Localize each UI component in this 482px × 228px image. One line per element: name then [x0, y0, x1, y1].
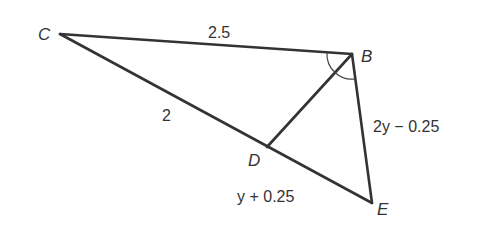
length-label-cd: 2 — [162, 107, 171, 124]
vertex-label-b: B — [361, 47, 372, 66]
vertex-label-d: D — [248, 151, 260, 170]
angle-arc-dbe — [335, 73, 355, 80]
angle-arc-cbd — [327, 52, 335, 72]
vertex-label-c: C — [38, 25, 51, 44]
segment-be — [352, 54, 372, 203]
segment-bd-bisector — [267, 54, 352, 147]
length-label-cb: 2.5 — [208, 24, 230, 41]
vertex-label-e: E — [377, 200, 389, 219]
length-label-be: 2y − 0.25 — [373, 118, 439, 135]
segment-ce — [60, 34, 372, 203]
length-label-de: y + 0.25 — [237, 188, 294, 205]
segment-cb — [60, 34, 352, 54]
triangle-diagram: C B D E 2.5 2 y + 0.25 2y − 0.25 — [0, 0, 482, 228]
